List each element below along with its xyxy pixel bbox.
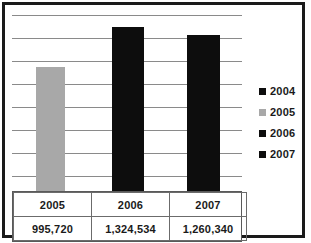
chart-screenshot: 2005 2006 2007 995,720 1,324,534 1,260,3… bbox=[0, 0, 311, 243]
table-cell-value-2007: 1,260,340 bbox=[170, 217, 247, 241]
legend-swatch-icon bbox=[259, 109, 266, 116]
table-cell-category-2006: 2006 bbox=[92, 193, 170, 217]
legend-label: 2005 bbox=[270, 107, 295, 118]
legend-item-2006[interactable]: 2006 bbox=[259, 123, 309, 144]
chart-legend: 2004 2005 2006 2007 bbox=[259, 81, 309, 165]
legend-item-2007[interactable]: 2007 bbox=[259, 144, 309, 165]
legend-label: 2004 bbox=[270, 86, 295, 97]
bar-2006[interactable] bbox=[112, 27, 144, 191]
plot-area bbox=[12, 12, 242, 192]
table-cell-value-2006: 1,324,534 bbox=[92, 217, 170, 241]
chart-outer-frame: 2005 2006 2007 995,720 1,324,534 1,260,3… bbox=[2, 2, 305, 238]
legend-swatch-icon bbox=[259, 151, 266, 158]
gridline bbox=[12, 15, 242, 16]
table-cell-category-2005: 2005 bbox=[14, 193, 92, 217]
table-row-values: 995,720 1,324,534 1,260,340 bbox=[14, 217, 247, 241]
table-row-categories: 2005 2006 2007 bbox=[14, 193, 247, 217]
legend-label: 2007 bbox=[270, 149, 295, 160]
legend-item-2005[interactable]: 2005 bbox=[259, 102, 309, 123]
bar-2007[interactable] bbox=[187, 35, 220, 191]
legend-swatch-icon bbox=[259, 88, 266, 95]
bar-2005[interactable] bbox=[36, 67, 65, 191]
legend-item-2004[interactable]: 2004 bbox=[259, 81, 309, 102]
data-table: 2005 2006 2007 995,720 1,324,534 1,260,3… bbox=[12, 191, 242, 242]
table-cell-category-2007: 2007 bbox=[170, 193, 247, 217]
table-cell-value-2005: 995,720 bbox=[14, 217, 92, 241]
legend-label: 2006 bbox=[270, 128, 295, 139]
legend-swatch-icon bbox=[259, 130, 266, 137]
